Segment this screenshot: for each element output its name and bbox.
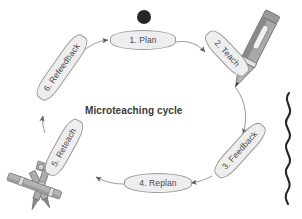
stage-label-replan: 4. Replan [138,179,177,188]
wavy-line-illustration [286,93,290,204]
diagram-title-text: Microteaching cycle [85,105,183,116]
stage-box-plan[interactable]: 1. Plan [110,30,176,50]
microteaching-cycle-diagram: 1. Plan 2. Teach 3. Feedback 4. Replan 5… [0,0,302,219]
stage-label-plan: 1. Plan [128,36,157,45]
diagram-title: Microteaching cycle [85,105,183,116]
stage-box-replan[interactable]: 4. Replan [124,173,192,193]
